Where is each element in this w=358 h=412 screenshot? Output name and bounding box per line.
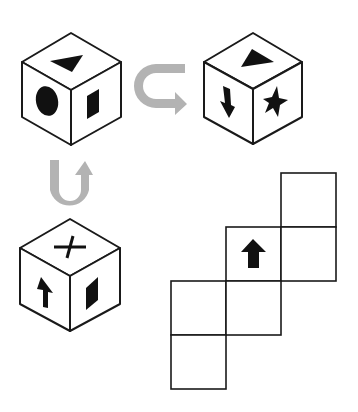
net-cell	[281, 173, 336, 227]
net-cell	[171, 281, 226, 335]
cube-3	[20, 219, 120, 331]
net-cell	[226, 281, 281, 335]
cube-2	[204, 33, 302, 144]
cube-net	[171, 173, 336, 389]
cube-puzzle-diagram	[0, 0, 358, 412]
u-turn-up-arrow-icon	[50, 160, 93, 206]
net-cell	[281, 227, 336, 281]
cube-1	[22, 33, 121, 145]
u-turn-right-arrow-icon	[134, 64, 187, 115]
net-cell	[171, 335, 226, 389]
